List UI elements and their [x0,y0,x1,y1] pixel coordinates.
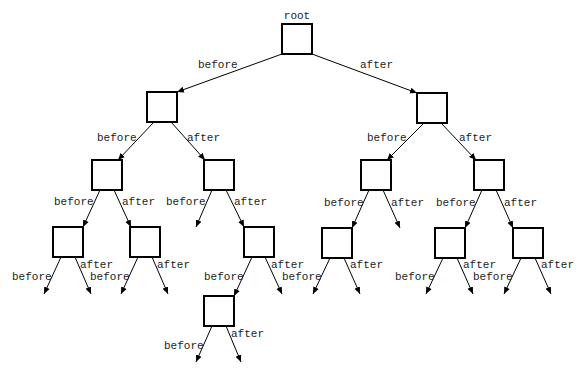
edge-labels-layer: beforeafterbeforeafterbeforeafterbeforea… [12,59,574,352]
edge-label-before: before [367,132,407,144]
tree-node-l [147,92,177,122]
edge-label-before: before [166,196,206,208]
edge-label-before: before [436,197,476,209]
edge-label-after: after [391,197,424,209]
edge-label-after: after [541,259,574,271]
edge-label-after: after [350,259,383,271]
edge-arrow-before [352,190,369,228]
edge-label-before: before [324,197,364,209]
edge-label-before: before [395,271,435,283]
edge-arrow-after [496,190,513,228]
edge-label-after: after [231,328,264,340]
edge-label-after: after [187,132,220,144]
edge-label-after: after [459,132,492,144]
tree-node-lll [53,227,83,257]
tree-node-rl [361,160,391,190]
edge-label-before: before [282,271,322,283]
tree-node-r [417,93,447,123]
edge-label-after: after [463,259,496,271]
tree-node-root [282,24,312,54]
edge-label-before: before [12,271,52,283]
edge-label-after: after [360,59,393,71]
edge-label-after: after [234,196,267,208]
edge-label-before: before [198,59,238,71]
tree-node-rrr [513,228,543,258]
edge-label-after: after [271,259,304,271]
tree-diagram: beforeafterbeforeafterbeforeafterbeforea… [0,0,582,378]
tree-node-lrrl [204,296,234,326]
edge-label-before: before [204,271,244,283]
edge-label-before: before [164,340,204,352]
root-label: root [284,10,310,22]
edge-label-after: after [157,259,190,271]
edge-label-before: before [473,271,513,283]
tree-node-rr [474,160,504,190]
tree-node-rrl [435,228,465,258]
tree-node-lrr [244,227,274,257]
tree-node-rll [322,228,352,258]
edge-arrow-before [465,190,482,228]
edge-label-after: after [80,259,113,271]
edge-label-before: before [97,132,137,144]
edge-label-before: before [90,271,130,283]
edge-label-after: after [122,196,155,208]
tree-node-lr [204,160,234,190]
edge-label-before: before [54,196,94,208]
edge-arrow-after [383,190,400,228]
tree-node-llr [130,227,160,257]
edge-label-after: after [504,197,537,209]
tree-node-ll [92,160,122,190]
